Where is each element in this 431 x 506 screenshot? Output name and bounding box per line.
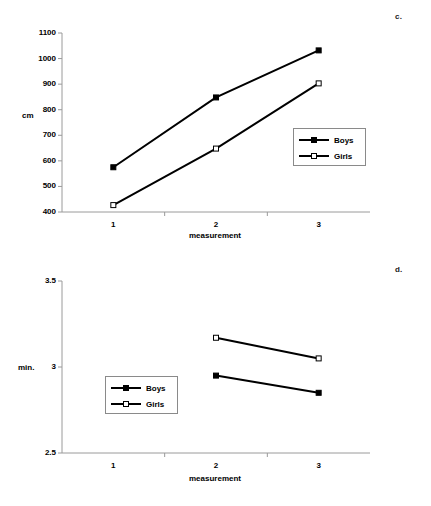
x-axis-title-c: measurement (160, 231, 270, 240)
y-tick-label: 1100 (18, 28, 56, 37)
legend-item-girls: Girls (294, 148, 365, 164)
x-tick-label: 1 (98, 461, 128, 470)
y-tick-label: 400 (18, 207, 56, 216)
chart-panel-d: d. min. measurement Boys Girls 2.533.512… (0, 253, 431, 506)
x-tick-label: 2 (201, 220, 231, 229)
legend-label-boys: Boys (334, 136, 354, 145)
y-tick-label: 700 (18, 130, 56, 139)
legend-label-girls: Girls (334, 152, 352, 161)
x-tick-label: 2 (201, 461, 231, 470)
y-tick-label: 600 (18, 156, 56, 165)
legend-c: Boys Girls (293, 128, 366, 166)
legend-item-boys: Boys (106, 380, 177, 396)
legend-key-boys-icon (299, 135, 329, 145)
y-tick-label: 2.5 (18, 448, 56, 457)
legend-d: Boys Girls (105, 376, 178, 414)
legend-key-girls-icon (111, 399, 141, 409)
legend-label-girls: Girls (146, 400, 164, 409)
x-tick-label: 3 (304, 461, 334, 470)
chart-panel-c: c. cm measurement Boys Girls 40050060070… (0, 0, 431, 253)
y-tick-label: 800 (18, 105, 56, 114)
x-axis-title-d: measurement (160, 474, 270, 483)
plot-area-c (0, 0, 431, 253)
x-tick-label: 1 (98, 220, 128, 229)
x-tick-label: 3 (304, 220, 334, 229)
y-tick-label: 900 (18, 79, 56, 88)
y-tick-label: 3.5 (18, 276, 56, 285)
legend-key-girls-icon (299, 151, 329, 161)
legend-label-boys: Boys (146, 384, 166, 393)
y-tick-label: 1000 (18, 54, 56, 63)
legend-key-boys-icon (111, 383, 141, 393)
legend-item-girls: Girls (106, 396, 177, 412)
legend-item-boys: Boys (294, 132, 365, 148)
y-tick-label: 500 (18, 181, 56, 190)
y-tick-label: 3 (18, 362, 56, 371)
